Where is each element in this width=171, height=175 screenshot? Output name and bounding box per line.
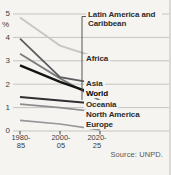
series-label-world: World: [84, 89, 110, 98]
series-label-africa: Africa: [84, 54, 110, 63]
y-tick-1: 1: [1, 104, 10, 112]
y-tick-5: 5: [1, 10, 10, 18]
y-tick-2: 2: [1, 81, 10, 89]
y-tick-4: 4: [1, 34, 10, 42]
y-axis-unit-label: %: [2, 21, 12, 29]
series-label-latin-america: Latin America and Caribbean: [86, 10, 162, 28]
x-tick-2020-25: 2020-25: [82, 134, 112, 149]
series-label-europe: Europe: [84, 120, 115, 129]
x-tick-2000-05: 2000-05: [46, 134, 76, 149]
x-tick-1980-85: 1980-85: [6, 134, 36, 149]
series-label-asia: Asia: [84, 79, 105, 88]
y-tick-3: 3: [1, 57, 10, 65]
chart-panel: 5 % 4 3 2 1 0 1980-85 2000-05 2020-25 La…: [0, 0, 171, 175]
source-note: Source: UNPD.: [110, 150, 163, 159]
series-label-north-america: North America: [84, 110, 142, 119]
series-label-oceania: Oceania: [84, 100, 118, 109]
